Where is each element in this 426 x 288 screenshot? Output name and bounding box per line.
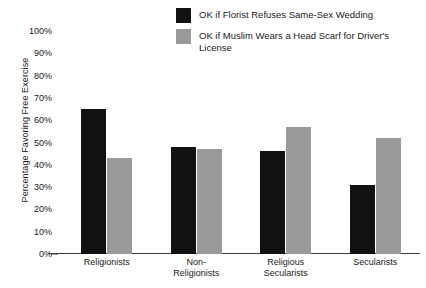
bar (107, 158, 132, 254)
y-tick-label: 60% (34, 115, 52, 125)
legend-label: OK if Florist Refuses Same-Sex Wedding (199, 8, 373, 21)
x-axis-labels: ReligionistsNon-ReligionistsReligiousSec… (62, 257, 420, 287)
y-tick-label: 100% (29, 26, 52, 36)
y-tick-label: 80% (34, 71, 52, 81)
y-axis-ticks: 100%90%80%70%60%50%40%30%20%10%0% (0, 31, 58, 254)
bar (197, 149, 222, 254)
legend-swatch-icon (176, 8, 191, 23)
bars-layer (62, 31, 420, 254)
x-axis-label: Secularists (315, 257, 426, 268)
bar-group (260, 31, 311, 254)
bar (286, 127, 311, 254)
y-tick-label: 30% (34, 182, 52, 192)
bar-group (350, 31, 401, 254)
y-tick-label: 70% (34, 93, 52, 103)
y-tick-label: 40% (34, 160, 52, 170)
x-axis-label-line: Secularists (315, 257, 426, 268)
legend-item: OK if Florist Refuses Same-Sex Wedding (176, 8, 422, 23)
chart-legend: OK if Florist Refuses Same-Sex WeddingOK… (176, 8, 422, 59)
legend-swatch-icon (176, 29, 191, 44)
bar (376, 138, 401, 254)
bar-chart: Percentage Favoring Free Exercise 100%90… (0, 0, 426, 288)
y-tick-label: 10% (34, 227, 52, 237)
y-tick-label: 90% (34, 48, 52, 58)
y-tick-label: 50% (34, 138, 52, 148)
x-axis-label-line: Secularists (226, 268, 346, 279)
bar (350, 185, 375, 254)
bar-group (81, 31, 132, 254)
legend-label: OK if Muslim Wears a Head Scarf for Driv… (199, 29, 422, 53)
bar (171, 147, 196, 254)
plot-area (62, 31, 420, 254)
bar (260, 151, 285, 254)
legend-item: OK if Muslim Wears a Head Scarf for Driv… (176, 29, 422, 53)
y-tick-label: 20% (34, 204, 52, 214)
bar-group (171, 31, 222, 254)
bar (81, 109, 106, 254)
